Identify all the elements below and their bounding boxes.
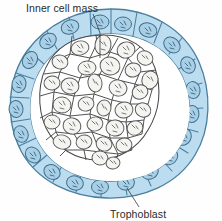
trophoblast-nucleus — [115, 17, 132, 31]
trophoblast-nucleus — [91, 15, 109, 29]
inner-cell-mass-label: Inner cell mass — [26, 2, 98, 14]
trophoblast-label: Trophoblast — [110, 208, 166, 220]
diagram-canvas: Inner cell mass Trophoblast — [0, 0, 222, 221]
blastocyst-diagram: Inner cell mass Trophoblast — [0, 0, 222, 221]
trophoblast-nucleus — [92, 180, 109, 194]
